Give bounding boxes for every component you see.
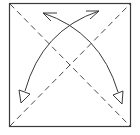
diagram-svg: [0, 0, 140, 135]
origami-diagram: Square sheet with both diagonals marked …: [0, 0, 140, 135]
